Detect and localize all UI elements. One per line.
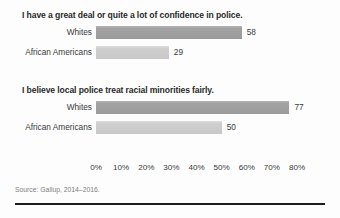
panel-title-fairness: I believe local police treat racial mino… <box>22 85 340 95</box>
bar-value-label: 58 <box>247 27 256 37</box>
chart-panel-fairness: I believe local police treat racial mino… <box>0 85 340 141</box>
bar-fill <box>96 26 242 39</box>
bar-track <box>96 26 297 39</box>
x-axis: 0%10%20%30%40%50%60%70%80% <box>96 163 297 175</box>
source-note: Source: Gallup, 2014–2016. <box>15 186 100 193</box>
chart-figure: I have a great deal or quite a lot of co… <box>0 0 340 218</box>
bar-fill <box>96 101 289 114</box>
bar-row: African Americans 29 <box>0 46 340 66</box>
category-label: African Americans <box>0 47 92 57</box>
x-tick-label: 40% <box>188 163 204 172</box>
bar-row: Whites 77 <box>0 101 340 121</box>
chart-panel-confidence: I have a great deal or quite a lot of co… <box>0 10 340 66</box>
panel-title-confidence: I have a great deal or quite a lot of co… <box>22 10 340 20</box>
x-tick-label: 70% <box>264 163 280 172</box>
x-tick-label: 10% <box>113 163 129 172</box>
category-label: Whites <box>0 27 92 37</box>
bar-fill <box>96 121 222 134</box>
x-tick-label: 50% <box>214 163 230 172</box>
bar-value-label: 77 <box>294 102 303 112</box>
x-tick-label: 80% <box>289 163 305 172</box>
bottom-rule <box>15 203 325 205</box>
x-tick-label: 0% <box>90 163 102 172</box>
x-tick-label: 20% <box>138 163 154 172</box>
bar-track <box>96 121 297 134</box>
bar-track <box>96 101 297 114</box>
category-label: Whites <box>0 102 92 112</box>
bar-value-label: 50 <box>227 122 236 132</box>
bar-row: African Americans 50 <box>0 121 340 141</box>
bar-fill <box>96 46 169 59</box>
bar-value-label: 29 <box>174 47 183 57</box>
x-tick-label: 60% <box>239 163 255 172</box>
x-tick-label: 30% <box>163 163 179 172</box>
category-label: African Americans <box>0 122 92 132</box>
bar-track <box>96 46 297 59</box>
bar-row: Whites 58 <box>0 26 340 46</box>
